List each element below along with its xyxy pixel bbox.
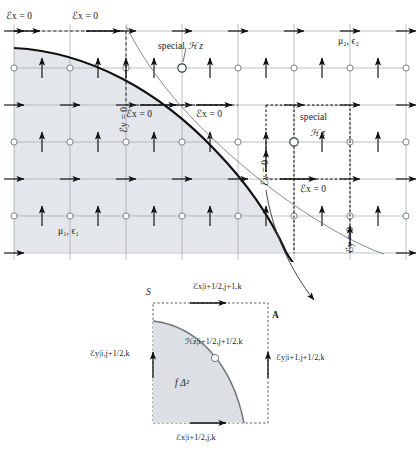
inset-hz-node bbox=[211, 354, 218, 361]
special-hz-node-right bbox=[290, 138, 298, 146]
label-material-outside: μ₂, ϵ₂ bbox=[338, 36, 359, 46]
label-inset-cell-area: f Δ² bbox=[175, 378, 189, 388]
label-inset-ey-right: ℰy|i+1,j+1/2,k bbox=[276, 352, 325, 362]
label-ey-right-vertical: ℰy = 0 bbox=[259, 160, 270, 186]
label-special-right: special bbox=[300, 112, 327, 122]
label-inset-ex-bottom: ℰx|i+1/2,j,k bbox=[176, 432, 216, 442]
label-inset-ey-left: ℰy|i,j+1/2,k bbox=[90, 348, 130, 358]
special-word-top: special bbox=[158, 41, 185, 51]
special-hz-node-top bbox=[178, 64, 186, 72]
hz-symbol-top: ℋ z bbox=[188, 41, 203, 51]
label-ex-lower-right: ℰx = 0 bbox=[300, 183, 326, 194]
label-special-hz-top: special ℋ z bbox=[158, 40, 203, 51]
inset-cell-panel bbox=[153, 303, 268, 423]
label-ex-mid-right: ℰx = 0 bbox=[196, 108, 222, 119]
label-ey-far-right: ℰy = 0 bbox=[344, 227, 355, 253]
label-ex-mid-left: ℰx = 0 bbox=[126, 108, 152, 119]
label-inset-area-symbol: S bbox=[146, 287, 151, 297]
label-inset-ex-top: ℰx|i+1/2,j+1,k bbox=[193, 281, 242, 291]
label-inset-corner-symbol: A bbox=[272, 310, 279, 320]
label-special-hz-right: ℋ z bbox=[310, 127, 325, 138]
material-region-1-fill bbox=[14, 48, 286, 252]
label-ex-top-left: ℰx = 0 bbox=[6, 10, 32, 21]
figure-canvas: ℰx = 0 ℰx = 0 ℰy = 0 ℰx = 0 ℰx = 0 ℰy = … bbox=[0, 0, 420, 461]
label-material-inside: μ₁, ϵ₁ bbox=[58, 226, 79, 236]
label-ex-top-mid: ℰx = 0 bbox=[72, 10, 98, 21]
label-inset-hz-center: ℋz|i+1/2,j+1/2,k bbox=[185, 336, 243, 346]
contour-path-arrows-right bbox=[266, 150, 350, 246]
